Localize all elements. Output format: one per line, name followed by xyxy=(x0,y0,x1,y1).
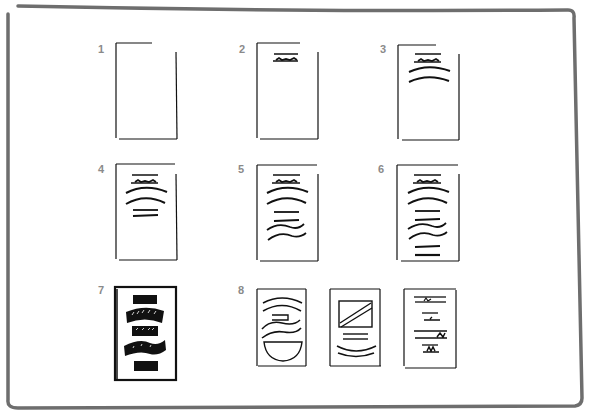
arc-line xyxy=(338,353,374,357)
black-banner xyxy=(126,308,164,323)
page-8-variant-b xyxy=(330,289,381,366)
arc-line xyxy=(126,188,167,193)
text-line xyxy=(133,215,158,216)
step-label-2: 2 xyxy=(239,43,245,55)
text-line xyxy=(274,220,299,221)
page-3 xyxy=(398,45,459,140)
sketch-canvas xyxy=(0,0,602,420)
arc-line xyxy=(337,346,376,351)
wavy-line xyxy=(408,223,446,229)
title-bar xyxy=(272,175,300,183)
black-banner xyxy=(132,326,158,336)
wavy-line xyxy=(262,328,301,338)
black-banner xyxy=(134,361,158,371)
black-banner xyxy=(133,295,157,304)
title-bar xyxy=(273,54,298,61)
page-7 xyxy=(115,287,176,380)
page-2 xyxy=(257,43,318,139)
wavy-line xyxy=(409,232,447,239)
arc-line xyxy=(126,198,165,204)
text-line xyxy=(415,219,440,220)
step-label-7: 7 xyxy=(98,284,104,296)
arc-line xyxy=(263,306,301,312)
step-label-6: 6 xyxy=(378,163,384,175)
page-8-variant-a xyxy=(257,289,306,366)
text-line xyxy=(272,315,288,320)
arc-line xyxy=(267,188,308,193)
arc-line xyxy=(267,198,306,204)
page-4 xyxy=(116,164,177,260)
arc-line xyxy=(409,67,450,72)
page-5 xyxy=(257,165,318,261)
page-6 xyxy=(397,165,459,261)
page-1 xyxy=(116,43,177,139)
step-label-8: 8 xyxy=(238,284,244,296)
arc-line xyxy=(409,77,449,82)
step-label-3: 3 xyxy=(380,43,386,55)
wavy-line xyxy=(262,320,300,329)
text-line xyxy=(415,246,440,247)
step-label-1: 1 xyxy=(98,43,104,55)
step-label-4: 4 xyxy=(98,163,104,175)
page-8-variant-c xyxy=(404,289,456,368)
wavy-line xyxy=(267,224,304,230)
outer-frame xyxy=(8,6,582,408)
black-banner xyxy=(124,340,166,356)
title-bar xyxy=(131,175,158,183)
title-bar xyxy=(414,54,441,62)
arc-line xyxy=(263,298,302,303)
semicircle xyxy=(264,342,302,361)
wavy-line xyxy=(268,233,306,240)
title-bar xyxy=(413,175,441,183)
arc-line xyxy=(408,198,447,204)
arc-line xyxy=(408,188,449,193)
step-label-5: 5 xyxy=(238,163,244,175)
